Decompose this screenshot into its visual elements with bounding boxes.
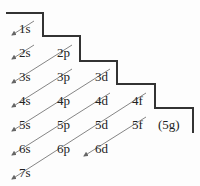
orbital-label: 2s — [19, 46, 31, 60]
orbital-label: 6d — [95, 142, 108, 156]
orbital-label: (5g) — [158, 118, 180, 132]
orbital-label: 1s — [19, 22, 31, 36]
orbital-label: 4d — [95, 94, 108, 108]
aufbau-diagram: 1s2s2p3s3p3d4s4p4d4f5s5p5d5f(5g)6s6p6d7s — [0, 0, 200, 186]
orbital-label: 7s — [19, 166, 31, 180]
orbital-label: 2p — [57, 46, 70, 60]
orbital-label: 5p — [57, 118, 70, 132]
orbital-label: 5f — [132, 118, 143, 132]
orbital-label: 6p — [57, 142, 70, 156]
orbital-label: 3d — [95, 70, 108, 84]
orbital-label: 4s — [19, 94, 31, 108]
orbital-label: 5d — [95, 118, 108, 132]
orbital-label: 4p — [57, 94, 70, 108]
orbital-label: 4f — [132, 94, 143, 108]
orbital-label: 5s — [19, 118, 31, 132]
orbital-label: 3p — [57, 70, 70, 84]
orbital-label: 3s — [19, 70, 31, 84]
orbital-label: 6s — [19, 142, 31, 156]
arrow-from-4f — [12, 93, 146, 179]
